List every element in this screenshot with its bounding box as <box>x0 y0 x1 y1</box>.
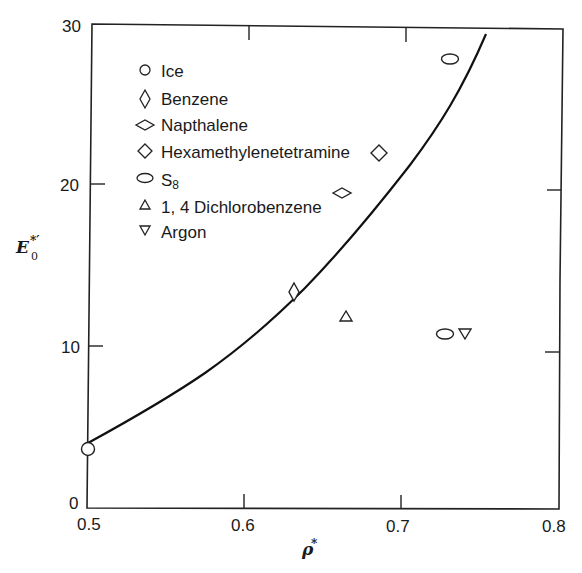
chart-canvas: 30 20 10 0 0.5 0.6 0.7 0.8 E *′ 0 ρ * Ic… <box>0 0 582 573</box>
legend-item-benzene: Benzene <box>140 90 228 109</box>
point-s8-high <box>442 54 459 64</box>
legend-item-dichlorobenzene: 1, 4 Dichlorobenzene <box>140 198 322 217</box>
legend-label-benzene: Benzene <box>161 90 228 109</box>
legend-label-s8: S8 <box>161 171 179 192</box>
y-axis-title-sub: 0 <box>31 250 38 263</box>
point-s8-low <box>437 329 454 339</box>
legend-item-napthalene: Napthalene <box>136 116 248 135</box>
legend-label-hexa: Hexamethylenetetramine <box>161 143 350 162</box>
y-tick-label-10: 10 <box>61 338 80 357</box>
legend-item-hexamethylenetetramine: Hexamethylenetetramine <box>138 143 350 162</box>
y-tick-labels: 30 20 10 0 <box>60 17 81 513</box>
point-ice <box>82 443 95 456</box>
point-napthalene <box>333 188 351 198</box>
x-tick-label-0.6: 0.6 <box>231 516 255 535</box>
x-tick-labels: 0.5 0.6 0.7 0.8 <box>77 515 566 536</box>
point-argon <box>459 329 471 339</box>
legend-item-s8: S8 <box>137 171 179 192</box>
wide-diamond-icon <box>136 120 154 130</box>
y-tick-label-0: 0 <box>69 494 78 513</box>
legend-item-argon: Argon <box>140 223 206 242</box>
legend-label-napthalene: Napthalene <box>161 116 248 135</box>
legend-item-ice: Ice <box>140 62 184 81</box>
triangle-down-icon <box>140 226 150 235</box>
x-tick-label-0.5: 0.5 <box>77 515 101 534</box>
y-tick-label-20: 20 <box>60 176 79 195</box>
y-axis-title: E *′ 0 <box>15 234 40 263</box>
y-tick-label-30: 30 <box>62 17 81 36</box>
legend-label-argon: Argon <box>161 223 206 242</box>
point-dichlorobenzene <box>340 311 352 321</box>
point-benzene <box>289 283 299 301</box>
x-axis-title-sup: * <box>311 537 318 551</box>
ellipse-icon <box>137 174 153 183</box>
x-tick-label-0.7: 0.7 <box>386 517 410 536</box>
x-tick-label-0.8: 0.8 <box>542 517 566 536</box>
diamond-icon <box>138 144 152 158</box>
point-hexamethylenetetramine <box>371 145 387 161</box>
legend-label-ice: Ice <box>161 62 184 81</box>
tall-diamond-icon <box>140 90 150 108</box>
triangle-up-icon <box>140 200 150 209</box>
circle-icon <box>140 65 150 75</box>
data-points <box>82 54 472 456</box>
x-axis-title: ρ * <box>301 537 318 559</box>
y-axis-title-main: E <box>15 237 30 257</box>
legend-label-dichlorobenzene: 1, 4 Dichlorobenzene <box>161 198 322 217</box>
y-axis-title-sup: *′ <box>30 234 40 248</box>
legend: Ice Benzene Napthalene Hexamethylenetetr… <box>136 62 350 242</box>
